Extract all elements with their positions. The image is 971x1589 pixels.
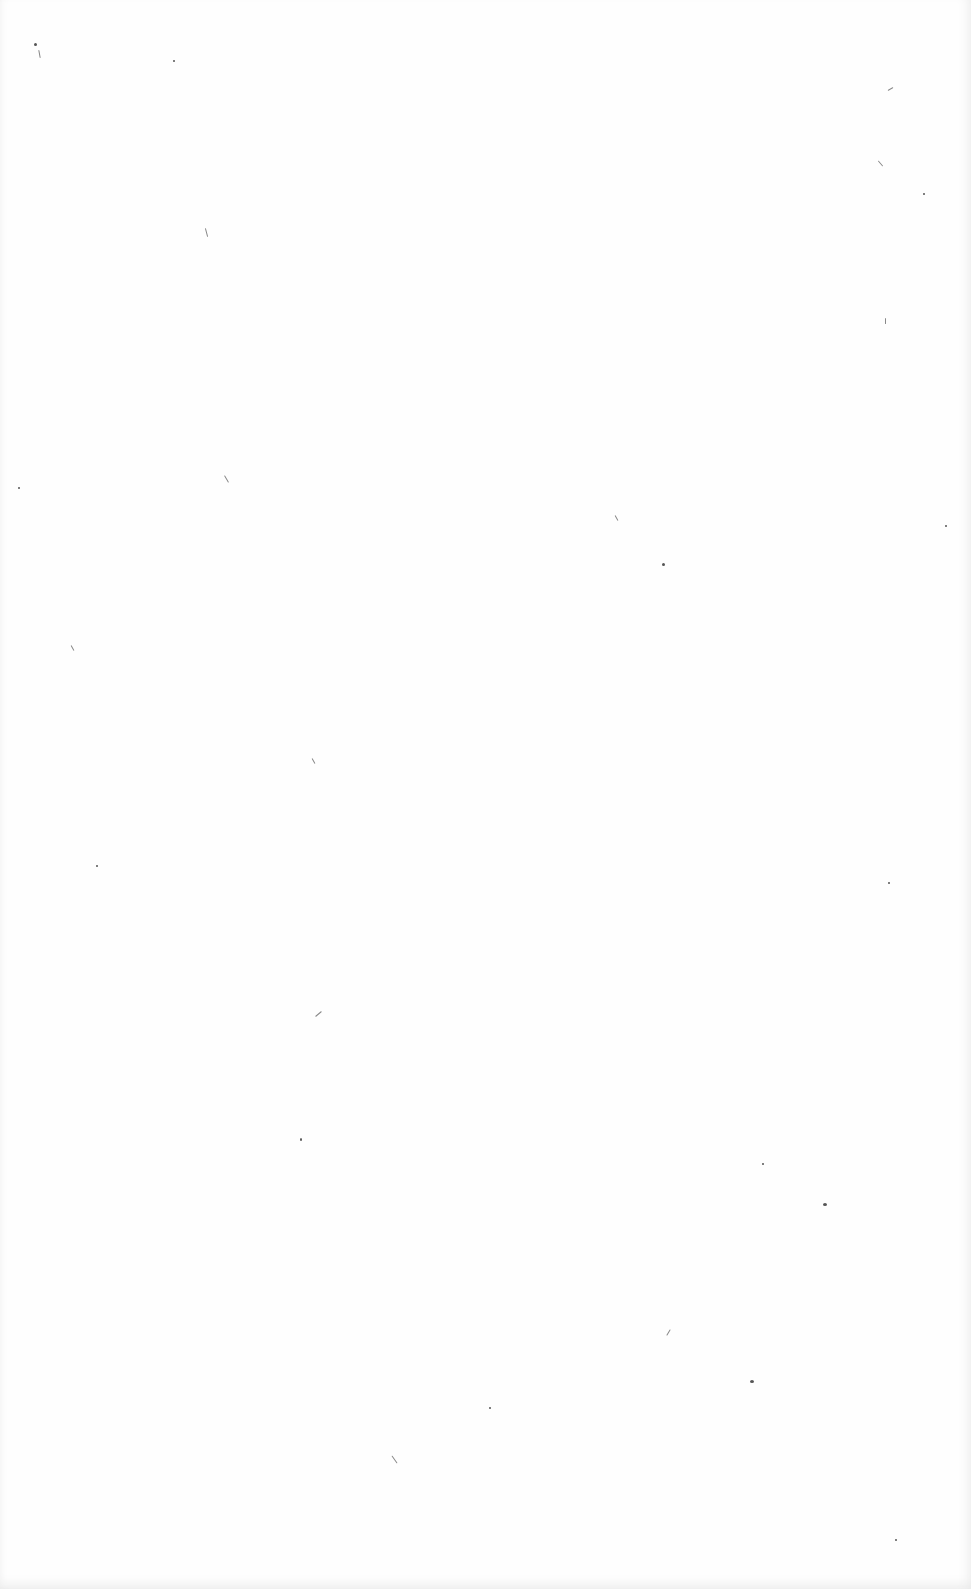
dust-speck <box>762 1163 764 1165</box>
dust-speck <box>96 865 98 867</box>
dust-speck <box>750 1380 754 1383</box>
dust-speck <box>895 1539 897 1541</box>
paper-fiber <box>224 475 229 482</box>
dust-speck <box>923 193 925 195</box>
paper-fiber <box>878 160 883 166</box>
paper-fiber <box>205 228 208 237</box>
paper-fiber <box>38 50 40 58</box>
blank-page <box>0 0 971 1589</box>
paper-fiber <box>312 758 316 764</box>
dust-speck <box>300 1138 302 1141</box>
dust-speck <box>945 525 947 527</box>
paper-fiber <box>666 1329 670 1336</box>
dust-speck <box>34 43 37 46</box>
paper-fiber <box>885 318 886 324</box>
paper-fiber <box>888 87 894 91</box>
paper-fiber <box>392 1456 398 1464</box>
paper-fiber <box>315 1011 322 1017</box>
paper-fiber <box>615 515 619 521</box>
dust-speck <box>489 1407 491 1409</box>
dust-speck <box>18 487 20 489</box>
dust-speck <box>173 60 175 62</box>
dust-speck <box>823 1203 827 1206</box>
dust-speck <box>888 882 890 884</box>
dust-speck <box>662 563 665 566</box>
paper-fiber <box>71 645 75 651</box>
